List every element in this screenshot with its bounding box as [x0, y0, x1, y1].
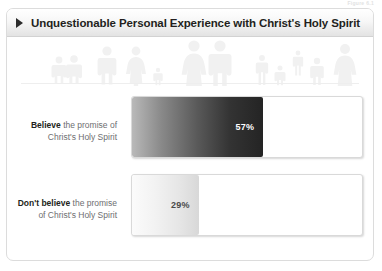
bar-label-dont-believe-bold: Don't believe: [18, 198, 71, 208]
bar-chart: Believe the promise of Christ's Holy Spi…: [7, 86, 373, 244]
figure-card: Unquestionable Personal Experience with …: [6, 8, 374, 261]
bar-label-believe-line2: Christ's Holy Spirit: [48, 131, 117, 143]
bar-value-believe: 57%: [235, 122, 254, 132]
chart-row-believe: Believe the promise of Christ's Holy Spi…: [7, 96, 373, 166]
band-divider: [21, 83, 359, 84]
people-silhouettes-icon: [15, 37, 367, 86]
chart-row-dont-believe: Don't believe the promise of Christ's Ho…: [7, 174, 373, 244]
bar-track-dont-believe: 29%: [131, 174, 363, 236]
figure-title-bar: Unquestionable Personal Experience with …: [7, 9, 373, 37]
people-watermark-band: [7, 37, 373, 86]
bar-label-dont-believe-line2: of Christ's Holy Spirit: [38, 209, 117, 221]
bar-label-dont-believe-rest: the promise: [70, 198, 117, 208]
bar-label-dont-believe: Don't believe the promise of Christ's Ho…: [7, 174, 125, 244]
triangle-right-icon: [16, 18, 23, 28]
bar-label-believe: Believe the promise of Christ's Holy Spi…: [7, 96, 125, 166]
page-title: Unquestionable Personal Experience with …: [31, 17, 360, 29]
bar-fill-believe: 57%: [132, 97, 263, 157]
bar-fill-dont-believe: 29%: [132, 175, 199, 235]
bar-value-dont-believe: 29%: [171, 200, 190, 210]
bar-label-believe-rest: the promise of: [61, 120, 117, 130]
figure-caption: Figure 6.1: [347, 0, 374, 6]
bar-track-believe: 57%: [131, 96, 363, 158]
bar-label-believe-bold: Believe: [31, 120, 61, 130]
